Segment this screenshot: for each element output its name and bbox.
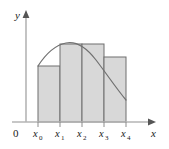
x-tick-label-4-sub: 4 — [127, 134, 131, 142]
x-tick-label-3-sub: 3 — [105, 134, 109, 142]
riemann-sum-figure: y x 0 x 0 x 1 x 2 x 3 x 4 — [0, 0, 169, 149]
x-tick-label-0-sub: 0 — [39, 134, 43, 142]
x-tick-label-2-base: x — [76, 128, 82, 139]
figure-canvas: y x 0 x 0 x 1 x 2 x 3 x 4 — [0, 0, 169, 149]
x-tick-label-0-base: x — [32, 128, 38, 139]
riemann-bar-1 — [38, 66, 60, 122]
x-tick-label-4: x 4 — [120, 128, 131, 142]
riemann-bar-4 — [104, 57, 126, 122]
x-tick-labels: x 0 x 1 x 2 x 3 x 4 — [32, 128, 131, 142]
x-tick-label-3-base: x — [98, 128, 104, 139]
x-tick-label-0: x 0 — [32, 128, 43, 142]
x-axis-label: x — [150, 127, 156, 139]
y-axis-arrow-icon — [23, 10, 30, 18]
x-tick-label-1-sub: 1 — [61, 134, 65, 142]
origin-label: 0 — [13, 127, 19, 139]
x-tick-label-2-sub: 2 — [83, 134, 87, 142]
x-tick-label-3: x 3 — [98, 128, 109, 142]
y-axis — [23, 10, 30, 122]
riemann-bar-2 — [60, 44, 82, 122]
y-axis-label: y — [14, 9, 20, 21]
x-tick-label-2: x 2 — [76, 128, 87, 142]
x-tick-label-4-base: x — [120, 128, 126, 139]
x-tick-label-1: x 1 — [54, 128, 65, 142]
x-axis-arrow-icon — [148, 119, 156, 126]
x-tick-label-1-base: x — [54, 128, 60, 139]
